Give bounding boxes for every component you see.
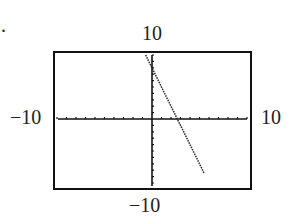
plot-area [0,0,288,221]
